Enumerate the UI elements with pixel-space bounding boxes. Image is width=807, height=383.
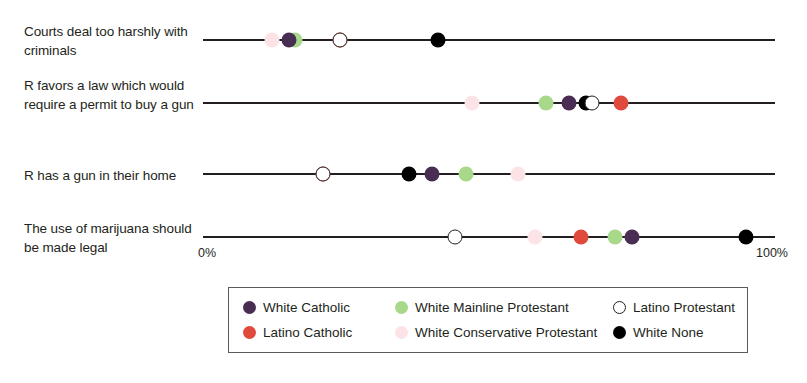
legend-label: White None [633,325,704,340]
legend-swatch-icon [395,326,408,339]
legend-grid: White Catholic White Mainline Protestant… [229,288,747,352]
chart-container: Courts deal too harshly with criminals R… [0,0,807,383]
data-point-white-none [401,167,416,182]
row-label-marijuana: The use of marijuana should be made lega… [24,219,196,257]
data-point-white-catholic [281,33,296,48]
legend-label: White Mainline Protestant [415,300,569,315]
data-point-white-conservative-protestant [510,167,525,182]
data-point-white-none [739,230,754,245]
legend-swatch-icon [243,326,256,339]
legend-item-latino-catholic[interactable]: Latino Catholic [243,325,395,340]
legend-swatch-icon [613,301,626,314]
data-point-latino-protestant [316,167,331,182]
data-point-white-mainline-protestant [459,167,474,182]
legend: White Catholic White Mainline Protestant… [228,287,748,353]
data-point-white-catholic [562,96,577,111]
legend-item-latino-protestant[interactable]: Latino Protestant [613,300,747,315]
legend-item-white-none[interactable]: White None [613,325,747,340]
data-point-latino-protestant [584,96,599,111]
legend-label: White Conservative Protestant [415,325,597,340]
data-point-white-catholic [424,167,439,182]
row-label-courts: Courts deal too harshly with criminals [24,22,196,60]
data-point-latino-protestant [447,230,462,245]
axis-label-max: 100% [756,246,788,260]
data-point-white-mainline-protestant [539,96,554,111]
legend-item-white-conservative-protestant[interactable]: White Conservative Protestant [395,325,613,340]
data-point-latino-catholic [573,230,588,245]
legend-label: White Catholic [263,300,350,315]
data-point-white-conservative-protestant [464,96,479,111]
legend-swatch-icon [395,301,408,314]
data-point-latino-protestant [333,33,348,48]
legend-item-white-mainline-protestant[interactable]: White Mainline Protestant [395,300,613,315]
row-label-gun-home: R has a gun in their home [24,166,196,185]
data-point-white-conservative-protestant [264,33,279,48]
axis-label-min: 0% [198,246,216,260]
axis-line-row-4 [203,236,775,238]
data-point-latino-catholic [613,96,628,111]
row-label-gun-permit: R favors a law which would require a per… [24,76,196,114]
legend-swatch-icon [243,301,256,314]
data-point-white-conservative-protestant [527,230,542,245]
legend-label: Latino Protestant [633,300,735,315]
axis-line-row-3 [203,173,775,175]
legend-item-white-catholic[interactable]: White Catholic [243,300,395,315]
data-point-white-catholic [625,230,640,245]
legend-swatch-icon [613,326,626,339]
axis-line-row-2 [203,102,775,104]
legend-label: Latino Catholic [263,325,352,340]
data-point-white-none [430,33,445,48]
data-point-white-mainline-protestant [607,230,622,245]
